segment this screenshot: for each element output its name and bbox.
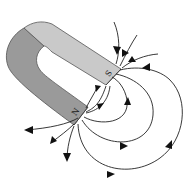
arrow-loop-3 xyxy=(124,97,131,105)
horseshoe-magnet: S N xyxy=(6,22,121,125)
arrow-loop-5-top xyxy=(142,63,150,71)
arrow-outgoing-3 xyxy=(63,153,71,162)
arrow-incoming-3 xyxy=(128,56,136,62)
horseshoe-magnet-diagram: S N xyxy=(0,0,193,188)
arrow-loop-5-right xyxy=(165,140,172,149)
arrow-loop-1 xyxy=(97,103,104,110)
arrow-outgoing-2 xyxy=(50,136,57,144)
arrow-outgoing-1 xyxy=(24,126,33,134)
field-line-loop-2 xyxy=(86,86,110,113)
field-line-incoming-1 xyxy=(114,22,119,64)
arrow-incoming-1 xyxy=(113,46,121,55)
field-line-incoming-3 xyxy=(122,54,158,68)
arrow-inner xyxy=(95,85,101,92)
field-line-loop-5 xyxy=(78,68,182,169)
arrow-loop-4 xyxy=(120,142,128,150)
arrow-loop-5-bottom xyxy=(107,171,115,178)
